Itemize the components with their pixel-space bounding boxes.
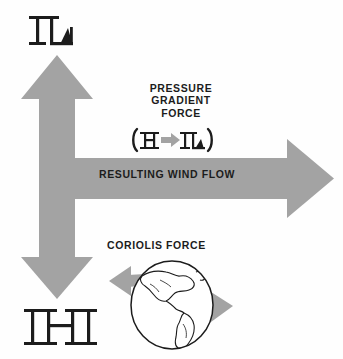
formula-high-symbol xyxy=(140,132,159,149)
wind-force-diagram: PRESSURE GRADIENT FORCE RESULTING WIND F… xyxy=(0,0,343,359)
formula-arrow-right-icon xyxy=(161,133,180,147)
formula-close-paren xyxy=(208,129,212,151)
pressure-gradient-force-label: PRESSURE GRADIENT FORCE xyxy=(133,82,229,119)
pgf-line-3: FORCE xyxy=(161,107,201,119)
formula-open-paren xyxy=(133,129,137,151)
pressure-gradient-formula xyxy=(133,129,212,151)
arrow-down xyxy=(21,257,93,299)
pgf-line-1: PRESSURE xyxy=(150,82,213,94)
resulting-wind-flow-label: RESULTING WIND FLOW xyxy=(99,168,235,180)
high-pressure-symbol-bottom xyxy=(24,309,97,345)
formula-low-symbol xyxy=(180,132,205,149)
low-pressure-symbol-top xyxy=(29,16,73,45)
pgf-line-2: GRADIENT xyxy=(151,94,211,106)
coriolis-force-label: CORIOLIS FORCE xyxy=(107,239,206,251)
earth-globe xyxy=(131,261,213,349)
